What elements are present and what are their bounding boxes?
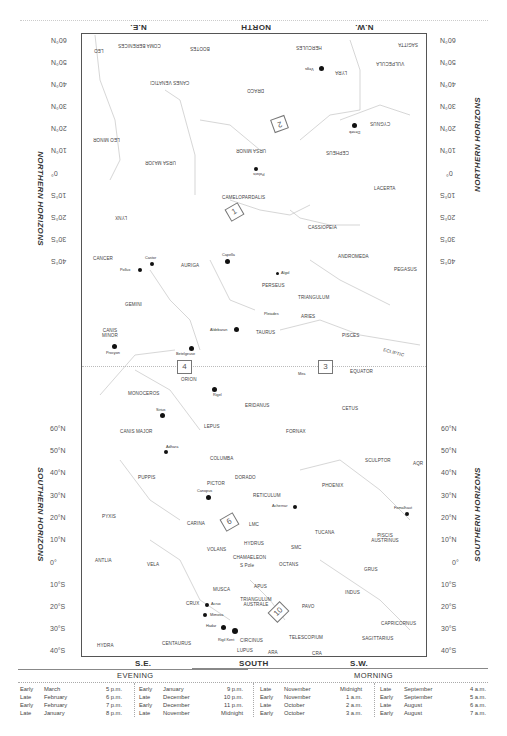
star-label-deneb: Deneb xyxy=(349,130,360,134)
star-aldebaran xyxy=(234,327,239,332)
constellation-aries: ARIES xyxy=(301,314,315,319)
constellation-centaurus: CENTAURUS xyxy=(162,641,191,646)
constellation-aqr: AQR xyxy=(413,461,423,466)
constellation-cassiopeia: CASSIOPEIA xyxy=(308,225,337,230)
constellation-pavo: PAVO xyxy=(302,604,314,609)
evening-table-1: EarlyMarch5 p.m. LateFebruary6 p.m. Earl… xyxy=(20,685,122,717)
constellation-capricornus: CAPRICORNUS xyxy=(381,621,416,626)
direction-south: SOUTH xyxy=(239,659,269,668)
star-castor xyxy=(150,262,154,266)
constellation-triangulum: TRIANGULUM xyxy=(298,295,329,300)
time-row: LateAugust6 a.m. xyxy=(380,701,486,709)
equator-label: EQUATOR xyxy=(350,369,373,374)
time-row: EarlyOctober3 a.m. xyxy=(260,709,362,717)
constellation-coma-berenices: COMA BERENICES xyxy=(118,43,161,48)
time-row: EarlySeptember5 a.m. xyxy=(380,693,486,701)
constellation-pisces: PISCES xyxy=(342,333,359,338)
constellation-lines xyxy=(0,0,507,736)
constellation-ara: ARA xyxy=(268,650,278,655)
south-pole-label: S Pole xyxy=(240,563,254,568)
constellation-circinus: CIRCINUS xyxy=(240,638,263,643)
constellation-vulpecula: VULPECULA xyxy=(376,61,404,66)
star-adhara xyxy=(164,450,168,454)
constellation-draco: DRACO xyxy=(247,88,264,93)
star-label-hadar: Hadar xyxy=(206,624,216,628)
constellation-pyxis: PYXIS xyxy=(102,514,116,519)
constellation-leo: LEO xyxy=(94,48,104,53)
time-row: LateNovemberMidnight xyxy=(260,685,362,693)
star-label-capella: Capella xyxy=(222,253,235,257)
time-row: LateFebruary6 p.m. xyxy=(20,693,122,701)
constellation-lacerta: LACERTA xyxy=(374,186,395,191)
constellation-dorado: DORADO xyxy=(235,475,256,480)
constellation-lynx: LYNX xyxy=(115,215,127,220)
star-label-adhara: Adhara xyxy=(166,445,178,449)
constellation-canis-major: CANIS MAJOR xyxy=(120,429,153,434)
region-box-4: 4 xyxy=(177,360,192,374)
constellation-pictor: PICTOR xyxy=(207,481,225,486)
constellation-gemini: GEMINI xyxy=(125,302,142,307)
constellation-auriga: AURIGA xyxy=(181,263,199,268)
constellation-phoenix: PHOENIX xyxy=(322,483,343,488)
constellation-chamaeleon: CHAMAELEON xyxy=(233,555,266,560)
star-label-rigil-kent: Rigil Kent xyxy=(218,638,234,642)
constellation-sagitta: SAGITTA xyxy=(398,42,418,47)
constellation-ursa-minor: URSA MINOR xyxy=(236,148,266,153)
constellation-pegasus: PEGASUS xyxy=(394,267,417,272)
constellation-cepheus: CEPHEUS xyxy=(326,150,349,155)
star-label-rigel: Rigel xyxy=(213,393,222,397)
star-label-achernar: Achernar xyxy=(272,504,287,508)
region-box-3: 3 xyxy=(318,360,333,374)
star-pollux xyxy=(138,268,142,272)
constellation-taurus: TAURUS xyxy=(256,330,275,335)
star-achernar xyxy=(293,505,297,509)
evening-rule xyxy=(18,669,248,670)
star-betelgeuse xyxy=(189,346,194,351)
star-label-aldebaran: Aldebaran xyxy=(210,328,227,332)
constellation-lmc: LMC xyxy=(249,522,259,527)
constellation-antlia: ANTLIA xyxy=(95,558,112,563)
constellation-canis-minor: CANIS MINOR xyxy=(100,328,120,338)
star-procyon xyxy=(112,344,117,349)
constellation-bootes: BOOTES xyxy=(190,46,210,51)
time-row: EarlyFebruary7 p.m. xyxy=(20,701,122,709)
column-separator xyxy=(253,683,254,717)
star-label-algol: Algol xyxy=(281,271,289,275)
column-separator xyxy=(134,683,135,717)
constellation-lupus: LUPUS xyxy=(237,648,253,653)
time-row: EarlyMarch5 p.m. xyxy=(20,685,122,693)
star-hadar xyxy=(221,625,226,630)
constellation-lepus: LEPUS xyxy=(204,424,220,429)
constellation-triangulum-australe: TRIANGULUM AUSTRALE xyxy=(238,597,274,607)
constellation-apus: APUS xyxy=(254,584,267,589)
constellation-perseus: PERSEUS xyxy=(262,283,285,288)
star-canopus xyxy=(206,495,211,500)
star-label-castor: Castor xyxy=(145,256,156,260)
constellation-fornax: FORNAX xyxy=(286,429,306,434)
star-algol xyxy=(276,272,279,275)
constellation-cetus: CETUS xyxy=(342,406,358,411)
constellation-reticulum: RETICULUM xyxy=(253,493,281,498)
star-fomalhaut xyxy=(405,512,409,516)
morning-rule xyxy=(192,668,488,669)
star-label-canopus: Canopus xyxy=(197,489,212,493)
star-sirius xyxy=(160,413,165,418)
time-row: LateJanuary8 p.m. xyxy=(20,709,122,717)
time-row: LateOctober2 a.m. xyxy=(260,701,362,709)
time-row: EarlyAugust7 a.m. xyxy=(380,709,486,717)
star-label-fomalhaut: Fomalhaut xyxy=(394,506,412,510)
constellation-indus: INDUS xyxy=(345,590,360,595)
constellation-vela: VELA xyxy=(147,562,159,567)
constellation-camelopardalis: CAMELOPARDALIS xyxy=(222,195,265,200)
constellation-smc: SMC xyxy=(291,545,302,550)
star-label-pleiades: Pleiades xyxy=(264,312,279,316)
time-row: LateDecember10 p.m. xyxy=(139,693,243,701)
constellation-eridanus: ERIDANUS xyxy=(245,403,270,408)
star-mimosa xyxy=(203,613,207,617)
star-capella xyxy=(225,259,230,264)
constellation-cygnus: CYGNUS xyxy=(370,121,390,126)
column-separator xyxy=(374,683,375,717)
star-label-procyon: Procyon xyxy=(106,351,120,355)
star-vega xyxy=(319,66,324,71)
constellation-canes-venatici: CANES VENATICI xyxy=(150,80,189,85)
